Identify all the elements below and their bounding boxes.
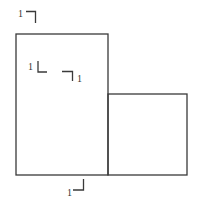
mark-top-label: 1 [18,8,23,19]
small-square [108,94,187,175]
mark-bottom-label: 1 [67,187,72,198]
corner-bracket-icon [62,72,73,82]
corner-bracket-icon [73,179,84,190]
mark-top: 1 [18,8,36,23]
corner-bracket-icon [38,61,47,72]
mark-mid-right: 1 [62,72,82,85]
corner-bracket-icon [26,12,36,24]
mark-bottom: 1 [67,179,84,198]
mark-mid-left-label: 1 [28,61,33,72]
mark-mid-left: 1 [28,61,47,72]
mark-mid-right-label: 1 [77,73,82,84]
diagram-canvas: 1 1 1 1 [0,0,202,209]
tall-rectangle [16,34,108,175]
